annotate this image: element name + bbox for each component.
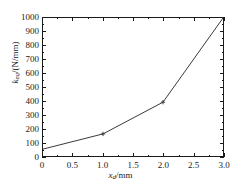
y-tick-right <box>222 150 224 151</box>
y-tick-right <box>220 143 224 144</box>
y-tick-right <box>222 122 224 123</box>
y-axis-subscript: eq <box>13 73 21 80</box>
y-tick-left <box>42 129 46 130</box>
y-tick-right <box>222 136 224 137</box>
y-tick-right <box>222 94 224 95</box>
y-tick-left <box>42 122 44 123</box>
y-tick-right <box>222 38 224 39</box>
y-tick-left <box>42 136 44 137</box>
x-tick-bottom <box>103 153 104 157</box>
y-tick-left <box>42 87 46 88</box>
y-tick-right <box>220 59 224 60</box>
x-tick-label: 1.5 <box>120 160 146 170</box>
x-tick-bottom <box>133 153 134 157</box>
y-tick-left <box>42 52 44 53</box>
x-tick-bottom <box>148 155 149 157</box>
x-tick-top <box>163 17 164 21</box>
y-tick-right <box>220 31 224 32</box>
series-line-keq <box>43 18 223 156</box>
x-tick-bottom <box>209 155 210 157</box>
y-tick-right <box>220 17 224 18</box>
x-tick-bottom <box>72 153 73 157</box>
y-tick-left <box>42 157 46 158</box>
x-tick-bottom <box>224 153 225 157</box>
x-tick-label: 3.0 <box>211 160 237 170</box>
x-tick-bottom <box>118 155 119 157</box>
x-tick-top <box>57 17 58 19</box>
x-tick-label: 0.5 <box>59 160 85 170</box>
plot-area <box>42 17 224 157</box>
y-tick-label: 300 <box>13 110 39 120</box>
y-tick-left <box>42 59 46 60</box>
y-axis-title: keq/(N/mm) <box>10 21 21 105</box>
y-tick-right <box>222 80 224 81</box>
y-tick-left <box>42 45 46 46</box>
x-tick-top <box>209 17 210 19</box>
x-tick-top <box>133 17 134 21</box>
x-tick-label: 1.0 <box>90 160 116 170</box>
x-tick-label: 2.5 <box>181 160 207 170</box>
y-tick-left <box>42 31 46 32</box>
y-tick-left <box>42 115 46 116</box>
x-tick-bottom <box>88 155 89 157</box>
y-tick-left <box>42 17 46 18</box>
y-tick-left <box>42 38 44 39</box>
x-axis-title: xd/mm <box>0 170 241 181</box>
y-tick-label: 200 <box>13 124 39 134</box>
x-tick-bottom <box>163 153 164 157</box>
x-tick-top <box>103 17 104 21</box>
y-tick-right <box>222 24 224 25</box>
y-tick-right <box>222 108 224 109</box>
y-tick-left <box>42 80 44 81</box>
y-tick-left <box>42 24 44 25</box>
y-tick-left <box>42 94 44 95</box>
y-tick-right <box>220 101 224 102</box>
x-tick-bottom <box>57 155 58 157</box>
y-tick-right <box>222 66 224 67</box>
y-tick-right <box>220 115 224 116</box>
y-tick-right <box>222 52 224 53</box>
x-tick-top <box>72 17 73 21</box>
y-axis-symbol: k <box>10 80 20 84</box>
x-tick-top <box>148 17 149 19</box>
y-tick-left <box>42 66 44 67</box>
x-tick-top <box>118 17 119 19</box>
x-tick-top <box>224 17 225 21</box>
y-tick-label: 0 <box>13 152 39 162</box>
y-axis-unit: /(N/mm) <box>10 41 20 73</box>
x-tick-bottom <box>179 155 180 157</box>
x-tick-top <box>194 17 195 21</box>
x-tick-bottom <box>194 153 195 157</box>
x-tick-top <box>179 17 180 19</box>
y-tick-left <box>42 143 46 144</box>
y-tick-left <box>42 150 44 151</box>
y-tick-right <box>220 157 224 158</box>
y-tick-right <box>220 73 224 74</box>
chart-figure: 00.51.01.52.02.53.0010020030040050060070… <box>0 0 241 186</box>
y-tick-label: 100 <box>13 138 39 148</box>
y-tick-left <box>42 101 46 102</box>
x-tick-label: 2.0 <box>150 160 176 170</box>
y-tick-right <box>220 87 224 88</box>
x-axis-unit: /mm <box>116 170 133 180</box>
x-tick-top <box>88 17 89 19</box>
y-tick-right <box>220 45 224 46</box>
y-tick-left <box>42 108 44 109</box>
y-tick-left <box>42 73 46 74</box>
y-tick-right <box>220 129 224 130</box>
